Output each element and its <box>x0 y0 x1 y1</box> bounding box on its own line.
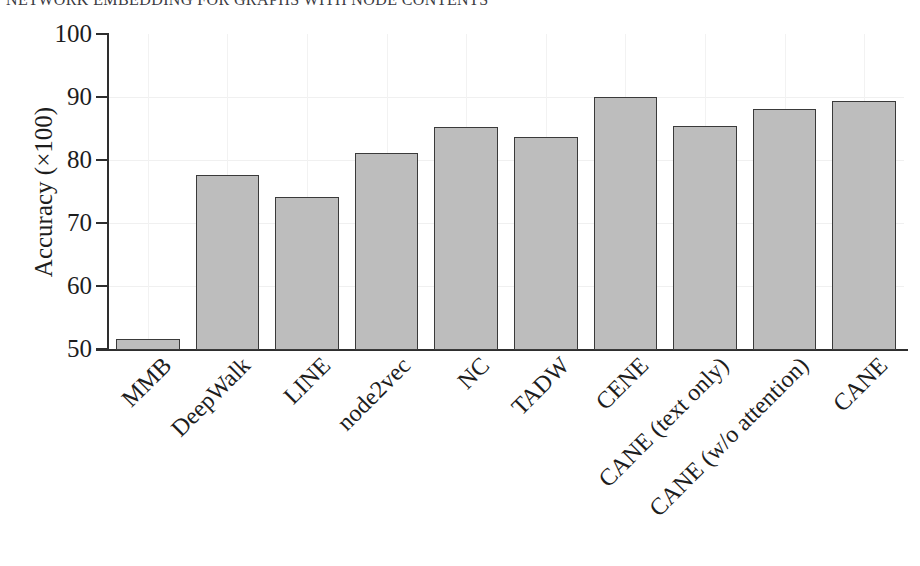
y-axis-tick <box>96 33 108 35</box>
y-axis-tick <box>96 222 108 224</box>
y-axis-tick-label: 90 <box>30 84 92 109</box>
bar-mmb[interactable] <box>116 339 180 350</box>
x-axis-tick-label: NC <box>453 352 495 394</box>
y-axis-tick <box>96 96 108 98</box>
x-axis-tick-label: CENE <box>591 352 654 415</box>
y-axis-tick <box>96 159 108 161</box>
y-axis-tick-label: 50 <box>30 336 92 361</box>
bar-chart: Accuracy (×100) 5060708090100 MMBDeepWal… <box>0 0 920 566</box>
bar-line[interactable] <box>275 197 339 350</box>
bar-series <box>108 34 904 350</box>
bar-node2vec[interactable] <box>355 153 419 350</box>
bar-nc[interactable] <box>434 127 498 350</box>
bar-tadw[interactable] <box>514 137 578 350</box>
bar-cane[interactable] <box>832 101 896 350</box>
y-axis-tick-label: 70 <box>30 210 92 235</box>
x-axis-tick-label: CANE <box>828 352 893 417</box>
x-axis-tick-labels: MMBDeepWalkLINEnode2vecNCTADWCENECANE (t… <box>108 352 904 566</box>
y-axis-tick-label: 80 <box>30 147 92 172</box>
bar-deepwalk[interactable] <box>196 175 260 350</box>
x-axis-tick-label: CANE (w/o attention) <box>644 352 813 521</box>
bar-cane-text-only[interactable] <box>673 126 737 350</box>
x-axis-tick-label: TADW <box>506 352 574 420</box>
x-axis-tick-label: node2vec <box>332 352 415 435</box>
y-axis-tick-labels: 5060708090100 <box>22 0 92 566</box>
x-axis-tick-label: DeepWalk <box>166 352 256 442</box>
x-axis-tick-label: LINE <box>278 352 335 409</box>
y-axis-tick <box>96 348 108 350</box>
y-axis-tick <box>96 285 108 287</box>
bar-cane-w-o-attention[interactable] <box>753 109 817 350</box>
y-axis-tick-label: 60 <box>30 273 92 298</box>
bar-cene[interactable] <box>594 97 658 350</box>
y-axis-tick-label: 100 <box>30 21 92 46</box>
x-axis-tick-label: MMB <box>116 352 176 412</box>
